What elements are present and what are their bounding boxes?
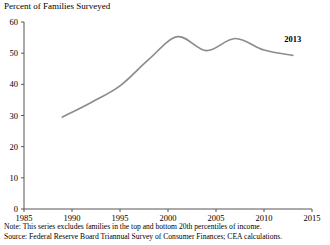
x-ticks-group: 1985199019952000200520102015 xyxy=(16,209,321,223)
y-axis-tick-label: 60 xyxy=(10,17,19,27)
y-axis-tick-label: 20 xyxy=(10,142,19,152)
footnote-source: Source: Federal Reserve Board Triannual … xyxy=(4,232,282,242)
y-axis-tick-label: 40 xyxy=(10,79,19,89)
y-ticks-group: 0102030405060 xyxy=(10,17,25,214)
footnote-note: Note: This series excludes families in t… xyxy=(4,222,282,232)
series-line-percent-of-families-surveyed xyxy=(62,37,292,118)
footnotes-block: Note: This series excludes families in t… xyxy=(4,222,282,241)
chart-figure: Percent of Families Surveyed 01020304050… xyxy=(0,0,330,245)
x-axis-tick-label: 2015 xyxy=(304,213,321,223)
y-axis-tick-label: 30 xyxy=(10,111,19,121)
y-axis-tick-label: 50 xyxy=(10,48,19,58)
line-chart-plot: 0102030405060 19851990199520002005201020… xyxy=(0,0,330,245)
data-series-group xyxy=(62,37,292,118)
series-end-annotation: 2013 xyxy=(284,34,301,44)
y-axis-tick-label: 10 xyxy=(10,173,19,183)
annotations-group: 2013 xyxy=(284,34,301,44)
